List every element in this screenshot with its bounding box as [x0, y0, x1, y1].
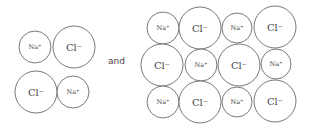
sodium-ion-label: Na⁺: [29, 43, 42, 51]
sodium-ion-label: Na⁺: [231, 24, 244, 32]
chloride-ion-label: Cl⁻: [192, 23, 208, 34]
sodium-ion-label: Na⁺: [195, 61, 208, 69]
sodium-ion-label: Na⁺: [270, 60, 283, 68]
chloride-ion-label: Cl⁻: [231, 60, 247, 71]
sodium-ion-label: Na⁺: [157, 24, 170, 32]
chloride-ion-label: Cl⁻: [154, 60, 170, 71]
sodium-ion-label: Na⁺: [67, 88, 80, 96]
connector-text: and: [108, 56, 125, 66]
nacl-lattice-grid: Na⁺Cl⁻Na⁺Cl⁻Cl⁻Na⁺Cl⁻Na⁺Na⁺Cl⁻Na⁺Cl⁻: [141, 6, 296, 123]
chloride-ion-label: Cl⁻: [28, 87, 44, 98]
sodium-ion-label: Na⁺: [157, 98, 170, 106]
sodium-ion-label: Na⁺: [231, 98, 244, 106]
nacl-unit-pair: Na⁺Cl⁻Cl⁻Na⁺: [15, 26, 95, 113]
chloride-ion-label: Cl⁻: [66, 42, 82, 53]
chloride-ion-label: Cl⁻: [192, 97, 208, 108]
chloride-ion-label: Cl⁻: [267, 96, 283, 107]
chloride-ion-label: Cl⁻: [267, 22, 283, 33]
ion-lattice-diagram: Na⁺Cl⁻Cl⁻Na⁺ Na⁺Cl⁻Na⁺Cl⁻Cl⁻Na⁺Cl⁻Na⁺Na⁺…: [0, 0, 310, 132]
